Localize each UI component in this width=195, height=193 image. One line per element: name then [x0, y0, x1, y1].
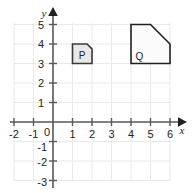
shape-p: P	[73, 44, 93, 64]
x-axis-label: x	[179, 124, 185, 136]
y-axis-label: y	[41, 7, 47, 19]
shape-p-label: P	[79, 50, 86, 61]
shape-q-label: Q	[136, 51, 144, 62]
y-tick-label--1: -1	[37, 141, 47, 153]
x-tick-labels: -2 -1 1 2 3 4 5 6	[9, 128, 173, 140]
coordinate-grid-svg: -2 -1 1 2 3 4 5 6 0 5 4 3 2 1 -1 -2 -3 x…	[0, 0, 195, 193]
x-tick-label-4: 4	[128, 128, 134, 140]
y-tick-label--3: -3	[37, 176, 47, 188]
y-tick-label-2: 2	[38, 77, 44, 89]
x-tick-label-5: 5	[147, 128, 153, 140]
y-tick-label--2: -2	[37, 156, 47, 168]
coordinate-plane-figure: -2 -1 1 2 3 4 5 6 0 5 4 3 2 1 -1 -2 -3 x…	[0, 0, 195, 193]
y-tick-label-5: 5	[38, 19, 44, 31]
x-tick-label-2: 2	[89, 128, 95, 140]
y-tick-label-1: 1	[38, 97, 44, 109]
x-tick-label--2: -2	[9, 128, 19, 140]
figure-background	[0, 0, 195, 193]
origin-label: 0	[44, 126, 50, 138]
x-tick-label-3: 3	[108, 128, 114, 140]
x-tick-label-6: 6	[167, 128, 173, 140]
y-tick-label-3: 3	[38, 58, 44, 70]
x-tick-label--1: -1	[29, 128, 39, 140]
y-tick-label-4: 4	[38, 38, 44, 50]
x-tick-label-1: 1	[69, 128, 75, 140]
